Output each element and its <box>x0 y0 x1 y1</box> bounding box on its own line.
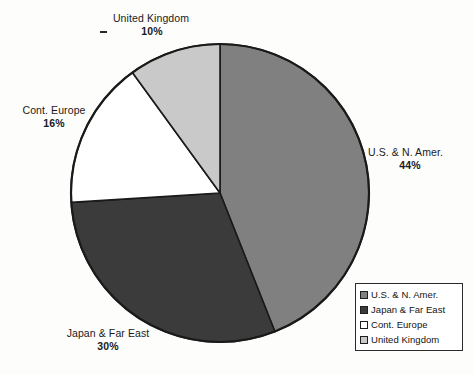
legend-swatch-icon <box>360 291 368 299</box>
legend-item-3[interactable]: Cont. Europe <box>360 317 459 332</box>
callout-japan-far-east: Japan & Far East 30% <box>42 327 174 353</box>
callout-united-kingdom-label: United Kingdom <box>86 12 216 25</box>
callout-cont-europe-label: Cont. Europe <box>2 104 106 117</box>
legend-swatch-icon <box>360 321 368 329</box>
callout-us-n-amer-label: U.S. & N. Amer. <box>368 146 472 159</box>
legend-item-1[interactable]: U.S. & N. Amer. <box>360 287 459 302</box>
legend-swatch-icon <box>360 306 368 314</box>
callout-cont-europe: Cont. Europe 16% <box>2 104 106 130</box>
callout-us-n-amer-percent: 44% <box>368 159 452 172</box>
legend-item-label: Japan & Far East <box>371 304 445 315</box>
pie-chart-figure: U.S. & N. Amer. 44%Japan & Far East 30%C… <box>0 0 474 374</box>
callout-united-kingdom-value-row: 10% <box>86 25 216 38</box>
legend-item-2[interactable]: Japan & Far East <box>360 302 459 317</box>
legend-swatch-icon <box>360 336 368 344</box>
pie-slice-group: U.S. & N. Amer. 44%Japan & Far East 30%C… <box>71 44 369 342</box>
chart-legend: U.S. & N. Amer.Japan & Far EastCont. Eur… <box>355 283 463 351</box>
legend-item-label: Cont. Europe <box>371 319 428 330</box>
callout-leader-dash-icon <box>100 31 107 33</box>
callout-japan-far-east-label: Japan & Far East <box>42 327 174 340</box>
legend-item-4[interactable]: United Kingdom <box>360 332 459 347</box>
legend-item-label: U.S. & N. Amer. <box>371 289 438 300</box>
callout-cont-europe-percent: 16% <box>2 117 106 130</box>
callout-united-kingdom-percent: 10% <box>122 25 182 38</box>
legend-item-label: United Kingdom <box>371 334 439 345</box>
callout-united-kingdom: United Kingdom 10% <box>86 12 216 38</box>
callout-us-n-amer: U.S. & N. Amer. 44% <box>368 146 472 172</box>
callout-japan-far-east-percent: 30% <box>42 340 174 353</box>
